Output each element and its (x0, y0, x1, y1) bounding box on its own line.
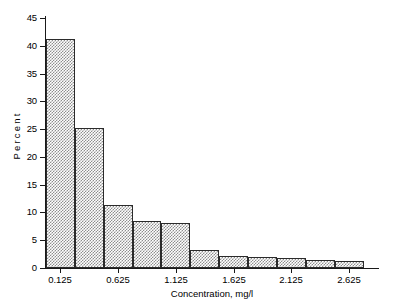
x-axis-tick-label: 1.625 (204, 275, 264, 285)
x-axis-line (45, 268, 379, 269)
histogram-bar (277, 258, 306, 268)
x-axis-tick (234, 269, 235, 273)
x-axis-tick (291, 269, 292, 273)
x-axis-tick (60, 269, 61, 273)
y-axis-tick (40, 129, 45, 130)
y-axis-tick-label: 40 (7, 41, 37, 51)
histogram-bar (133, 221, 162, 268)
histogram-figure: 051015202530354045 0.1250.6251.1251.6252… (0, 0, 393, 305)
x-axis-tick (176, 269, 177, 273)
x-axis-title: Concentration, mg/l (46, 288, 378, 299)
x-axis-tick-label: 0.125 (30, 275, 90, 285)
y-axis-tick-label: 10 (7, 207, 37, 217)
y-axis-tick (40, 240, 45, 241)
histogram-bar (306, 260, 335, 268)
y-axis-tick-label: 5 (7, 235, 37, 245)
plot-area (46, 18, 378, 268)
y-axis-tick (40, 46, 45, 47)
x-axis-tick (118, 269, 119, 273)
histogram-bar (75, 128, 104, 268)
y-axis-tick-label: 45 (7, 13, 37, 23)
y-axis-title: Percent (11, 76, 22, 196)
x-axis-tick-label: 2.625 (319, 275, 379, 285)
histogram-bar (190, 250, 219, 268)
histogram-bar (335, 261, 364, 268)
x-axis-tick (349, 269, 350, 273)
y-axis-tick (40, 74, 45, 75)
histogram-bar (248, 257, 277, 268)
x-axis-tick-label: 1.125 (146, 275, 206, 285)
histogram-bar (46, 39, 75, 268)
y-axis-tick (40, 18, 45, 19)
y-axis-tick-label: 0 (7, 263, 37, 273)
y-axis-tick (40, 185, 45, 186)
y-axis-tick (40, 268, 45, 269)
x-axis-tick-label: 0.625 (88, 275, 148, 285)
y-axis-tick (40, 101, 45, 102)
y-axis-tick (40, 212, 45, 213)
y-axis-tick (40, 157, 45, 158)
histogram-bar (219, 256, 248, 268)
histogram-bar (161, 223, 190, 268)
histogram-bar (104, 205, 133, 268)
x-axis-tick-label: 2.125 (261, 275, 321, 285)
